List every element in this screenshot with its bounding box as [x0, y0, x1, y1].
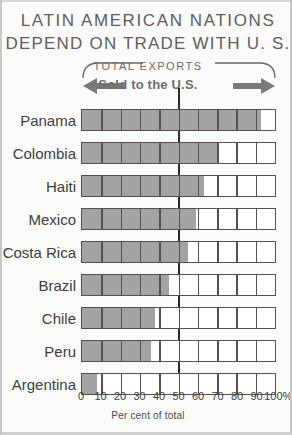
cell-divider — [217, 242, 219, 262]
cell-divider — [217, 275, 219, 295]
bar-chart: PanamaColombiaHaitiMexicoCosta RicaBrazi… — [2, 104, 292, 401]
cell-divider — [140, 209, 142, 229]
cell-divider — [179, 275, 181, 295]
axis-tick: 60 — [192, 390, 204, 402]
bar-label: Costa Rica — [2, 236, 76, 269]
axis-tick: 80 — [231, 390, 243, 402]
cell-divider — [198, 341, 200, 361]
axis-tick: 0 — [78, 390, 84, 402]
frame-top-rule — [2, 0, 292, 2]
cell-divider — [159, 341, 161, 361]
bar-row: Colombia — [2, 137, 292, 170]
cell-divider — [179, 209, 181, 229]
cell-divider — [121, 110, 123, 130]
cell-divider — [140, 275, 142, 295]
bar-track — [81, 274, 276, 296]
bar-row: Panama — [2, 104, 292, 137]
bar-cell-dividers — [82, 275, 275, 295]
cell-divider — [140, 143, 142, 163]
axis-tick: 20 — [114, 390, 126, 402]
axis-tick: 50 — [172, 390, 184, 402]
axis-caption: Per cent of total — [2, 410, 292, 421]
cell-divider — [198, 308, 200, 328]
cell-divider — [121, 308, 123, 328]
cell-divider — [101, 242, 103, 262]
cell-divider — [121, 275, 123, 295]
chart-figure: LATIN AMERICAN NATIONS DEPEND ON TRADE W… — [0, 0, 292, 435]
bar-row: Haiti — [2, 170, 292, 203]
axis-tick: 70 — [211, 390, 223, 402]
cell-divider — [179, 143, 181, 163]
cell-divider — [236, 242, 238, 262]
cell-divider — [101, 176, 103, 196]
bar-cell-dividers — [82, 341, 275, 361]
bar-row: Chile — [2, 302, 292, 335]
cell-divider — [179, 176, 181, 196]
cell-divider — [159, 275, 161, 295]
axis-tick: 40 — [153, 390, 165, 402]
cell-divider — [140, 110, 142, 130]
title-line-1: LATIN AMERICAN NATIONS — [2, 9, 292, 32]
bar-cell-dividers — [82, 308, 275, 328]
cell-divider — [256, 308, 258, 328]
cell-divider — [236, 110, 238, 130]
cell-divider — [256, 176, 258, 196]
bar-cell-dividers — [82, 209, 275, 229]
cell-divider — [101, 143, 103, 163]
bar-label: Haiti — [2, 170, 76, 203]
cell-divider — [198, 209, 200, 229]
bar-track — [81, 307, 276, 329]
cell-divider — [256, 275, 258, 295]
bar-cell-dividers — [82, 242, 275, 262]
bar-row: Brazil — [2, 269, 292, 302]
total-exports-label: TOTAL EXPORTS — [2, 60, 292, 72]
cell-divider — [140, 308, 142, 328]
cell-divider — [159, 110, 161, 130]
cell-divider — [159, 242, 161, 262]
bar-row: Mexico — [2, 203, 292, 236]
sold-to-us-label: Sold to the U.S. — [2, 77, 292, 92]
cell-divider — [256, 242, 258, 262]
bar-label: Colombia — [2, 137, 76, 170]
cell-divider — [159, 209, 161, 229]
cell-divider — [198, 110, 200, 130]
cell-divider — [121, 143, 123, 163]
cell-divider — [236, 209, 238, 229]
cell-divider — [121, 209, 123, 229]
cell-divider — [217, 341, 219, 361]
cell-divider — [198, 143, 200, 163]
bar-track — [81, 175, 276, 197]
bar-cell-dividers — [82, 176, 275, 196]
cell-divider — [217, 176, 219, 196]
page-title: LATIN AMERICAN NATIONS DEPEND ON TRADE W… — [2, 9, 292, 55]
axis-tick: 30 — [133, 390, 145, 402]
cell-divider — [140, 176, 142, 196]
axis-tick: 90 — [250, 390, 262, 402]
cell-divider — [159, 308, 161, 328]
cell-divider — [101, 110, 103, 130]
cell-divider — [256, 341, 258, 361]
bar-track — [81, 142, 276, 164]
cell-divider — [179, 242, 181, 262]
cell-divider — [140, 341, 142, 361]
cell-divider — [236, 308, 238, 328]
cell-divider — [101, 341, 103, 361]
cell-divider — [217, 110, 219, 130]
bar-track — [81, 109, 276, 131]
cell-divider — [140, 242, 142, 262]
bar-label: Brazil — [2, 269, 76, 302]
cell-divider — [179, 110, 181, 130]
bar-cell-dividers — [82, 143, 275, 163]
cell-divider — [101, 275, 103, 295]
cell-divider — [256, 143, 258, 163]
axis-tick: 10 — [94, 390, 106, 402]
bar-label: Mexico — [2, 203, 76, 236]
cell-divider — [236, 275, 238, 295]
cell-divider — [101, 308, 103, 328]
cell-divider — [121, 176, 123, 196]
cell-divider — [101, 209, 103, 229]
x-axis: 0102030405060708090100% — [2, 390, 292, 406]
bar-label: Panama — [2, 104, 76, 137]
cell-divider — [217, 143, 219, 163]
bar-row: Costa Rica — [2, 236, 292, 269]
